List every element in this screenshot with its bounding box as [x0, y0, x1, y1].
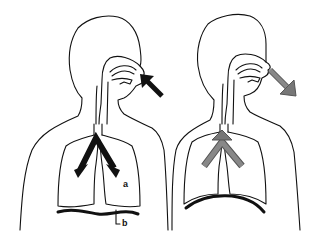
inhalation-figure — [20, 16, 168, 230]
left-tongue — [112, 79, 132, 85]
right-lung-right — [224, 132, 266, 204]
inhale-nose-arrow — [140, 74, 162, 96]
left-diaphragm — [58, 210, 138, 214]
exhale-nose-arrow — [270, 70, 296, 96]
exhale-lung-arrow — [204, 130, 242, 166]
left-palate — [110, 66, 136, 76]
right-tongue — [240, 77, 260, 83]
label-a: a — [123, 179, 128, 189]
right-palate — [236, 64, 262, 74]
label-b: b — [122, 218, 128, 228]
right-diaphragm — [186, 196, 264, 212]
exhalation-figure — [172, 14, 300, 230]
breathing-diagram — [0, 0, 321, 247]
right-lung-left — [184, 132, 222, 204]
left-lung-right — [100, 135, 140, 207]
